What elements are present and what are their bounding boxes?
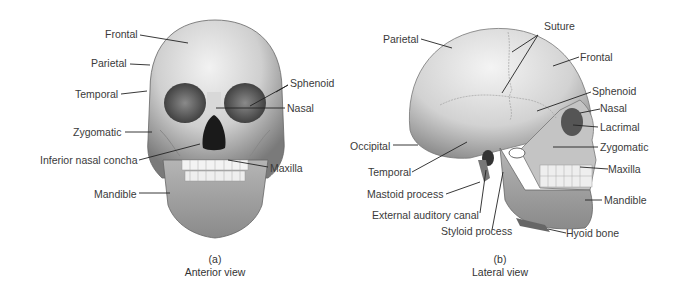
label-anterior-sphenoid: Sphenoid bbox=[290, 77, 334, 89]
label-anterior-temporal: Temporal bbox=[75, 88, 118, 100]
label-lateral-hyoid-bone: Hyoid bone bbox=[566, 227, 619, 239]
label-anterior-mandible: Mandible bbox=[94, 188, 137, 200]
label-lateral-occipital: Occipital bbox=[350, 140, 390, 152]
caption-lateral: (b) Lateral view bbox=[450, 253, 550, 279]
label-lateral-temporal: Temporal bbox=[368, 166, 411, 178]
label-lateral-external-auditory-canal: External auditory canal bbox=[372, 209, 479, 221]
caption-anterior: (a) Anterior view bbox=[165, 253, 265, 279]
caption-lateral-title: Lateral view bbox=[450, 266, 550, 279]
label-lateral-frontal: Frontal bbox=[580, 51, 613, 63]
label-lateral-mandible: Mandible bbox=[604, 194, 647, 206]
label-anterior-nasal: Nasal bbox=[287, 102, 314, 114]
label-lateral-maxilla: Maxilla bbox=[608, 163, 641, 175]
anterior-skull bbox=[148, 20, 285, 238]
label-anterior-zygomatic: Zygomatic bbox=[73, 126, 121, 138]
lateral-skull bbox=[409, 28, 596, 232]
label-lateral-nasal: Nasal bbox=[600, 102, 627, 114]
label-anterior-inferior-nasal-concha: Inferior nasal concha bbox=[40, 154, 137, 166]
label-lateral-lacrimal: Lacrimal bbox=[600, 121, 640, 133]
label-lateral-mastoid-process: Mastoid process bbox=[367, 188, 443, 200]
label-lateral-zygomatic: Zygomatic bbox=[600, 141, 648, 153]
label-lateral-suture: Suture bbox=[544, 20, 575, 32]
label-lateral-sphenoid: Sphenoid bbox=[592, 85, 636, 97]
label-anterior-frontal: Frontal bbox=[105, 28, 138, 40]
label-anterior-parietal: Parietal bbox=[91, 57, 127, 69]
label-lateral-styloid-process: Styloid process bbox=[441, 225, 512, 237]
caption-lateral-letter: (b) bbox=[450, 253, 550, 266]
skull-illustrations bbox=[0, 0, 685, 288]
label-anterior-maxilla: Maxilla bbox=[270, 162, 303, 174]
label-lateral-parietal: Parietal bbox=[383, 33, 419, 45]
caption-anterior-title: Anterior view bbox=[165, 266, 265, 279]
caption-anterior-letter: (a) bbox=[165, 253, 265, 266]
